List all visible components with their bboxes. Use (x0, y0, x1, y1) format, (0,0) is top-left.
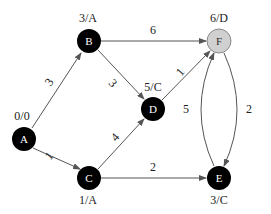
node-c-annotation: 1/A (79, 193, 97, 207)
edges (32, 41, 237, 178)
node-c: C 1/A (77, 166, 101, 207)
node-f-annotation: 6/D (210, 11, 228, 25)
node-a-annotation: 0/0 (14, 109, 29, 123)
edge-b-d (98, 50, 144, 99)
weight-b-f: 6 (150, 23, 156, 37)
weight-c-e: 2 (150, 160, 156, 174)
edge-e-f (201, 53, 214, 166)
node-b-label: B (85, 35, 92, 47)
weight-d-f: 1 (173, 65, 188, 79)
node-e-label: E (216, 172, 223, 184)
edge-f-e (224, 53, 237, 166)
node-d-annotation: 5/C (144, 80, 161, 94)
node-f: F 6/D (207, 11, 231, 53)
edge-c-d (98, 119, 144, 169)
node-a-label: A (20, 133, 28, 145)
weight-e-f: 5 (183, 102, 189, 116)
graph-diagram: 3 1 3 6 4 1 2 2 5 A 0/0 B 3/A C 1/A D 5/… (0, 0, 271, 214)
edge-a-c (33, 148, 80, 169)
weight-b-d: 3 (106, 76, 120, 90)
edge-a-b (32, 53, 81, 128)
weight-f-e: 2 (246, 102, 252, 116)
weight-a-c: 1 (42, 149, 57, 163)
node-e-annotation: 3/C (210, 193, 227, 207)
node-b-annotation: 3/A (79, 11, 97, 25)
weight-c-d: 4 (108, 130, 122, 144)
weight-a-b: 3 (42, 76, 57, 89)
node-d-label: D (149, 103, 157, 115)
node-e: E 3/C (207, 166, 231, 207)
node-c-label: C (85, 172, 92, 184)
node-a: A 0/0 (12, 109, 36, 151)
node-b: B 3/A (77, 11, 101, 53)
node-d: D 5/C (141, 80, 165, 121)
node-f-label: F (216, 35, 222, 47)
